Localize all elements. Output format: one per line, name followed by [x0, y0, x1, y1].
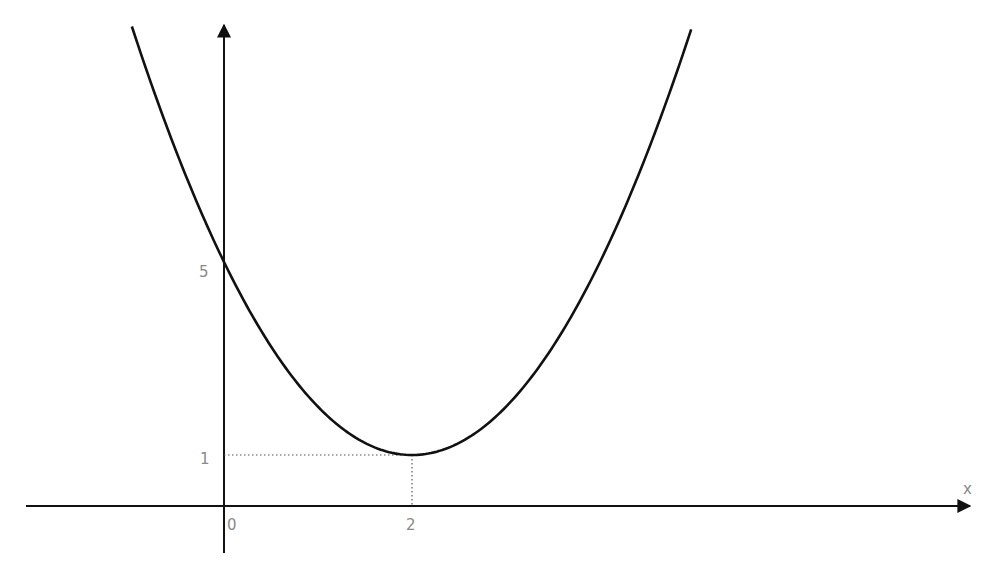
x-tick-label-0: 0: [227, 516, 237, 534]
y-tick-label-5: 5: [199, 263, 209, 281]
x-tick-label-2: 2: [406, 516, 416, 534]
y-tick-label-1: 1: [200, 450, 210, 468]
x-axis-label: x: [963, 480, 972, 498]
chart: x 0 2 1 5: [0, 0, 981, 573]
parabola-curve: [132, 27, 691, 455]
